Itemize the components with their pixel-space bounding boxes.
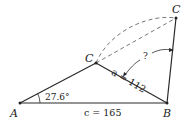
side-a-upper (167, 18, 176, 103)
vertex-B-label: B (162, 107, 171, 120)
unknown-angle-label: ? (143, 51, 148, 61)
vertex-C2-dot (175, 17, 178, 20)
vertex-C1-label: C (85, 52, 94, 65)
angle-A-label: 27.6° (45, 92, 70, 102)
triangle-diagram: A B C C 27.6° c = 165 a = 112 a = 112 ? (0, 0, 194, 125)
side-c-label: c = 165 (84, 107, 121, 118)
swing-arc (96, 17, 176, 63)
vertex-C1-dot (95, 62, 98, 65)
angle-arc-A (38, 94, 40, 103)
vertex-A-dot (19, 102, 22, 105)
vertex-A-label: A (9, 107, 18, 120)
vertex-B-dot (166, 102, 169, 105)
vertex-C2-label: C (172, 3, 181, 16)
